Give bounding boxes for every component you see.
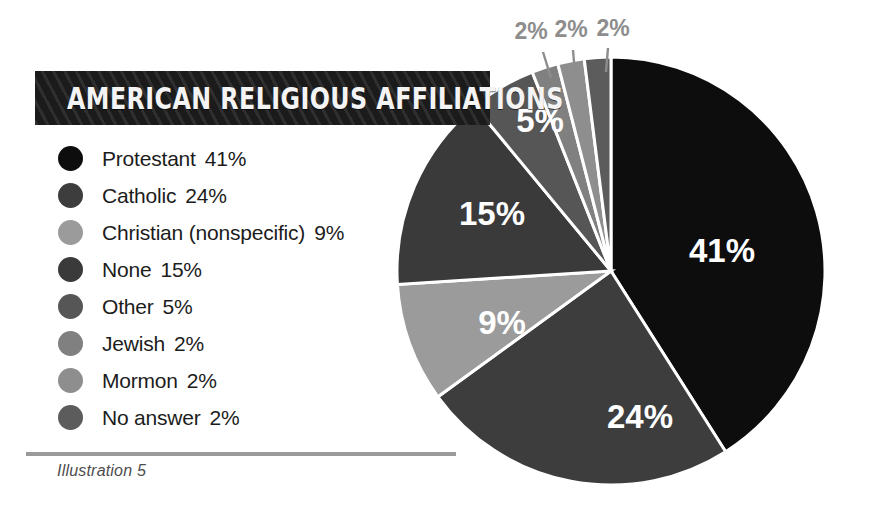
pie-slice-label: 24% [607,398,673,435]
legend-item: Jewish2% [58,325,478,362]
legend-swatch-icon [58,146,83,171]
callout-label: 2% [596,15,629,41]
legend-item-percent: 2% [210,406,240,429]
legend-item: None15% [58,251,478,288]
infographic-root: 41%24%9%15%5% 2%2%2% AMERICAN RELIGIOUS … [0,0,871,517]
pie-slice-label: 41% [689,232,755,269]
legend-item-label: No answer2% [102,406,240,430]
chart-title-banner: AMERICAN RELIGIOUS AFFILIATIONS [35,71,490,125]
legend-item: Mormon2% [58,362,478,399]
legend-swatch-icon [58,405,83,430]
legend-item-percent: 9% [314,221,344,244]
legend-item-label: None15% [102,258,202,282]
legend-item-percent: 24% [185,184,226,207]
legend-item-percent: 41% [205,147,246,170]
legend-item-label: Catholic24% [102,184,227,208]
callout-label: 2% [514,18,547,44]
legend-swatch-icon [58,331,83,356]
legend-swatch-icon [58,183,83,208]
legend-item: Christian (nonspecific)9% [58,214,478,251]
legend-swatch-icon [58,257,83,282]
legend-item-label: Other5% [102,295,192,319]
legend-item-label: Protestant41% [102,147,246,171]
legend-item-label: Christian (nonspecific)9% [102,221,344,245]
legend-swatch-icon [58,368,83,393]
legend-item-percent: 2% [187,369,217,392]
legend-item: Protestant41% [58,140,478,177]
legend: Protestant41%Catholic24%Christian (nonsp… [58,140,478,436]
legend-item-label: Mormon2% [102,369,217,393]
legend-item-percent: 2% [174,332,204,355]
pie-slice-label: 9% [478,304,526,341]
legend-item-percent: 5% [163,295,193,318]
legend-item: Catholic24% [58,177,478,214]
legend-swatch-icon [58,294,83,319]
illustration-caption: Illustration 5 [57,462,146,480]
legend-item-label: Jewish2% [102,332,204,356]
legend-item: No answer2% [58,399,478,436]
legend-item: Other5% [58,288,478,325]
callout-label: 2% [554,16,587,42]
legend-swatch-icon [58,220,83,245]
legend-item-percent: 15% [160,258,201,281]
page-title: AMERICAN RELIGIOUS AFFILIATIONS [67,81,564,116]
caption-divider [26,452,456,456]
